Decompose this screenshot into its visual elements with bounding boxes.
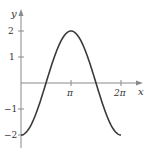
- x-tick-label: 2π: [113, 88, 127, 98]
- y-axis-arrow-icon: [19, 9, 24, 16]
- x-tick-label: π: [66, 88, 74, 98]
- y-tick-label: −1: [4, 104, 17, 114]
- y-tick-label: −2: [4, 130, 17, 140]
- y-axis-label: y: [10, 8, 17, 19]
- x-axis-arrow-icon: [136, 81, 143, 86]
- y-tick-label: 1: [9, 52, 15, 62]
- y-tick-label: 2: [8, 26, 14, 36]
- function-plot: y x 2 1 −1 −2 π 2π: [0, 0, 146, 160]
- x-axis-label: x: [138, 86, 144, 97]
